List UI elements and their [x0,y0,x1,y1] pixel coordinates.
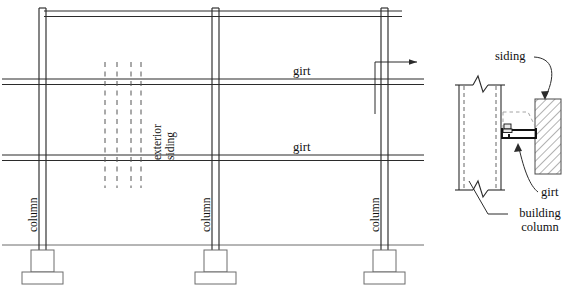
break-symbol-top [473,76,488,92]
connection-detail-view [0,0,577,293]
bolt-fastener [503,124,512,133]
girt-detail-label: girt [541,186,558,199]
building-column-label-line2: column [521,220,559,234]
siding-leader [534,57,552,100]
building-column-label-line1: building [519,206,561,220]
siding-hatch [535,99,561,174]
siding-label: siding [495,50,526,63]
break-symbol-bottom [473,181,488,197]
girt-leader [514,143,538,192]
building-column-label: building column [509,206,571,234]
technical-drawing-figure: girt girt exterior siding column column … [0,0,577,293]
column-section [455,85,505,190]
